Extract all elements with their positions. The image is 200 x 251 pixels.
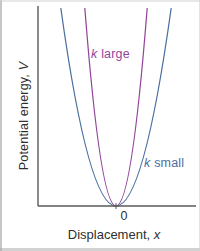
y-axis-label: Potential energy, V (17, 62, 31, 171)
curve-k-small (61, 8, 171, 206)
k-small-text: small (150, 156, 184, 170)
curve-annotation-k-small: k small (144, 156, 184, 170)
curve-annotation-k-large: k large (91, 47, 130, 61)
x-axis-label-text: Displacement, (68, 227, 154, 242)
x-axis-label-symbol: x (154, 227, 161, 242)
y-axis-label-symbol: V (17, 62, 31, 71)
k-large-text: large (97, 47, 129, 61)
curves-group (61, 8, 171, 206)
x-axis-label: Displacement, x (68, 227, 160, 242)
origin-tick-label: 0 (121, 209, 128, 223)
y-axis-label-text: Potential energy, (17, 70, 31, 170)
potential-energy-figure: Potential energy, V Displacement, x 0 k … (0, 0, 200, 251)
